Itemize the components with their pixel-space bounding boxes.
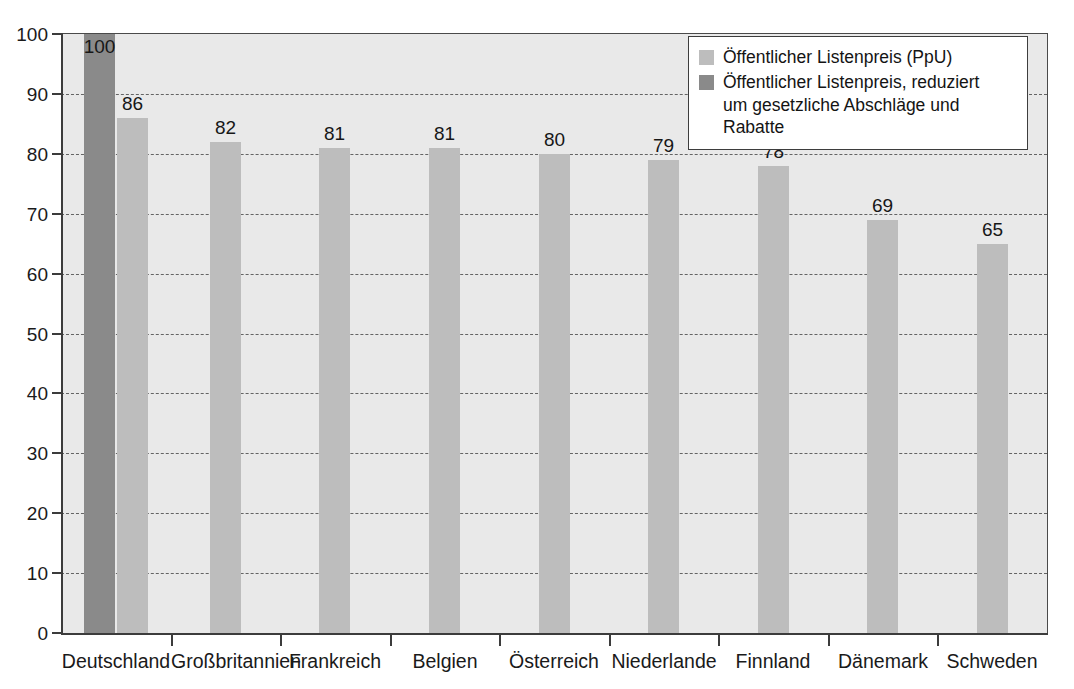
y-tick-label-80: 80 [27,145,48,164]
x-tick-mark-3 [390,635,392,646]
y-tick-mark-40 [52,392,62,394]
x-tick-mark-5 [609,635,611,646]
y-tick-mark-90 [52,93,62,95]
y-tick-label-20: 20 [27,504,48,523]
bar-grobritannien-82 [210,142,241,633]
x-tick-label-finnland: Finnland [718,650,828,673]
y-tick-label-0: 0 [37,624,48,643]
x-tick-mark-2 [280,635,282,646]
y-tick-mark-60 [52,273,62,275]
bar-chart: 100868281818079786965 100908070605040302… [0,0,1074,689]
bar-deutschland-100 [84,34,115,633]
y-tick-mark-100 [52,33,62,35]
y-tick-label-100: 100 [16,25,48,44]
bar-dnemark-69 [867,220,898,633]
legend-swatch-light [699,50,714,65]
y-tick-mark-30 [52,452,62,454]
y-tick-label-90: 90 [27,85,48,104]
x-tick-label-dnemark: Dänemark [828,650,938,673]
bar-value-label-81: 81 [301,124,368,143]
legend-item-reduziert: Öffentlicher Listenpreis, reduziert um g… [699,71,1017,138]
y-tick-mark-80 [52,153,62,155]
bar-frankreich-81 [319,148,350,633]
bar-schweden-65 [977,244,1008,633]
x-tick-label-schweden: Schweden [937,650,1047,673]
bar-deutschland-86 [117,118,148,633]
bar-value-label-69: 69 [849,196,916,215]
y-tick-label-10: 10 [27,564,48,583]
legend: Öffentlicher Listenpreis (PpU) Öffentlic… [688,36,1028,150]
bar-value-label-82: 82 [192,118,259,137]
bar-value-label-80: 80 [521,130,588,149]
bar-sterreich-80 [539,154,570,633]
x-tick-label-niederlande: Niederlande [609,650,719,673]
y-tick-label-50: 50 [27,325,48,344]
y-tick-mark-50 [52,333,62,335]
x-tick-mark-6 [718,635,720,646]
y-tick-label-70: 70 [27,205,48,224]
legend-label-listenpreis-line1: Öffentlicher Listenpreis (PpU) [723,47,952,67]
y-tick-mark-0 [52,632,62,634]
y-tick-label-60: 60 [27,265,48,284]
x-tick-mark-7 [828,635,830,646]
y-tick-label-30: 30 [27,444,48,463]
bar-value-label-81: 81 [411,124,478,143]
plot-border-right [1047,33,1048,634]
x-axis-line [61,633,1048,635]
x-tick-label-grobritannien: Großbritannien [171,650,281,673]
bar-finnland-78 [758,166,789,633]
bar-value-label-65: 65 [959,220,1026,239]
x-tick-label-deutschland: Deutschland [61,650,171,673]
bar-niederlande-79 [648,160,679,633]
y-tick-mark-10 [52,572,62,574]
x-tick-mark-8 [937,635,939,646]
x-tick-label-sterreich: Österreich [499,650,609,673]
y-tick-mark-20 [52,512,62,514]
legend-label-reduziert-line1: Öffentlicher Listenpreis, reduziert [723,72,979,92]
plot-border-top [61,33,1048,34]
x-tick-mark-1 [171,635,173,646]
legend-label-reduziert: Öffentlicher Listenpreis, reduziert um g… [723,71,1017,138]
x-tick-mark-4 [499,635,501,646]
legend-item-listenpreis: Öffentlicher Listenpreis (PpU) [699,46,1017,68]
bar-belgien-81 [429,148,460,633]
bar-value-label-86: 86 [99,94,166,113]
legend-label-reduziert-line2: um gesetzliche Abschläge und Rabatte [723,94,1017,139]
bar-value-label-79: 79 [630,136,697,155]
y-tick-label-40: 40 [27,384,48,403]
x-tick-label-frankreich: Frankreich [280,650,390,673]
x-tick-label-belgien: Belgien [390,650,500,673]
y-tick-mark-70 [52,213,62,215]
legend-label-listenpreis: Öffentlicher Listenpreis (PpU) [723,46,952,68]
bar-value-label-100: 100 [66,37,133,56]
legend-swatch-dark [699,75,714,90]
